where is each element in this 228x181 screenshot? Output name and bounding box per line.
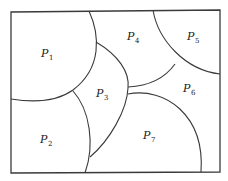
label-p3: P 3 (95, 87, 108, 102)
label-p1: P 1 (40, 47, 53, 62)
svg-text:P: P (39, 133, 48, 146)
label-p7: P 7 (142, 129, 155, 144)
svg-text:P: P (182, 82, 191, 95)
label-p2: P 2 (39, 133, 52, 148)
label-p6: P 6 (182, 82, 196, 97)
svg-text:3: 3 (104, 94, 108, 102)
label-p5: P 5 (186, 30, 199, 45)
svg-text:7: 7 (151, 136, 155, 144)
boundary-p1 (11, 11, 96, 101)
svg-text:4: 4 (135, 37, 140, 45)
svg-text:P: P (126, 30, 135, 43)
boundary-p7 (128, 93, 201, 172)
boundary-p4-p6 (128, 64, 175, 87)
svg-text:P: P (40, 47, 49, 60)
svg-text:2: 2 (48, 140, 52, 148)
svg-text:P: P (186, 30, 195, 43)
partition-diagram: P 1 P 2 P 3 P 4 P 5 P 6 P 7 (0, 0, 228, 181)
label-p4: P 4 (126, 30, 140, 45)
boundary-p2-p3 (73, 91, 90, 173)
svg-text:6: 6 (191, 89, 196, 97)
svg-text:P: P (95, 87, 104, 100)
svg-text:P: P (142, 129, 151, 142)
svg-text:1: 1 (49, 54, 53, 62)
svg-text:5: 5 (195, 37, 199, 45)
